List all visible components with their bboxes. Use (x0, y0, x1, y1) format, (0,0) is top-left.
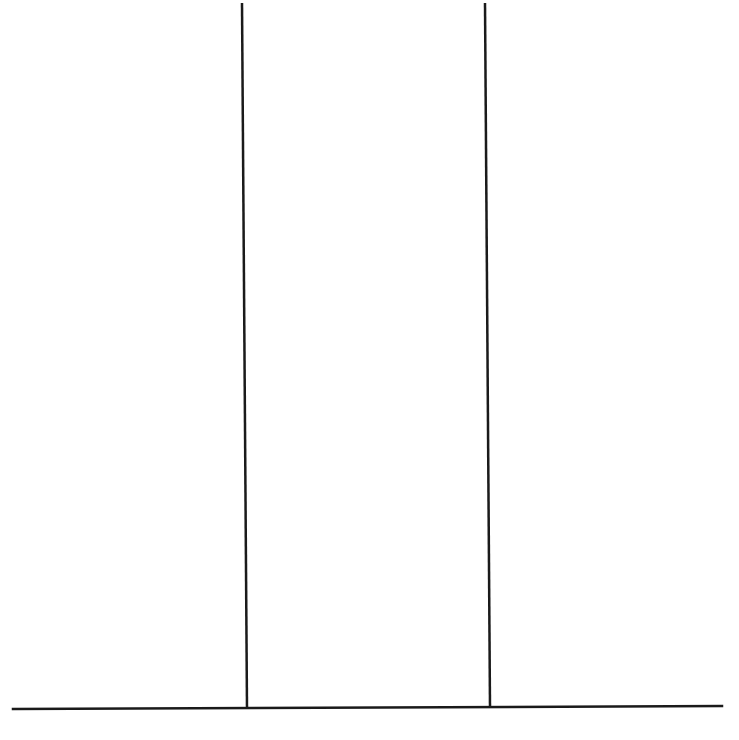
diagram-canvas (0, 0, 739, 740)
page-background (0, 0, 739, 740)
